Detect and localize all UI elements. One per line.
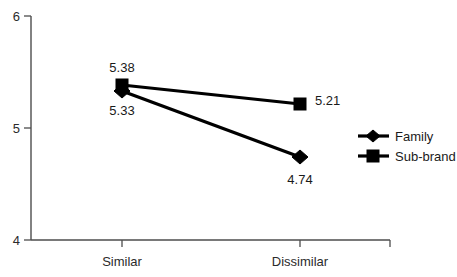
data-label-sub-brand-dissimilar: 5.21 bbox=[315, 93, 340, 108]
legend-item-family[interactable]: Family bbox=[358, 129, 434, 144]
chart-container: 6 5 4 Similar Dissimilar 5.38 5.33 5.21 … bbox=[0, 0, 457, 277]
y-tick-label-4: 4 bbox=[13, 233, 20, 248]
line-chart: 6 5 4 Similar Dissimilar 5.38 5.33 5.21 … bbox=[0, 0, 457, 277]
x-axis-label-similar: Similar bbox=[102, 254, 142, 269]
diamond-icon bbox=[366, 130, 380, 142]
legend-item-sub-brand[interactable]: Sub-brand bbox=[358, 149, 456, 164]
data-label-family-similar: 5.33 bbox=[109, 103, 134, 118]
x-axis-label-dissimilar: Dissimilar bbox=[272, 254, 329, 269]
legend-label-sub-brand: Sub-brand bbox=[395, 149, 456, 164]
square-icon bbox=[367, 150, 379, 162]
legend: Family Sub-brand bbox=[358, 129, 456, 164]
data-label-family-dissimilar: 4.74 bbox=[287, 172, 312, 187]
marker-family-dissimilar bbox=[292, 150, 308, 164]
y-tick-label-5: 5 bbox=[13, 121, 20, 136]
y-tick-label-6: 6 bbox=[13, 9, 20, 24]
legend-label-family: Family bbox=[395, 129, 434, 144]
data-label-sub-brand-similar: 5.38 bbox=[109, 60, 134, 75]
marker-sub-brand-dissimilar bbox=[294, 98, 306, 110]
